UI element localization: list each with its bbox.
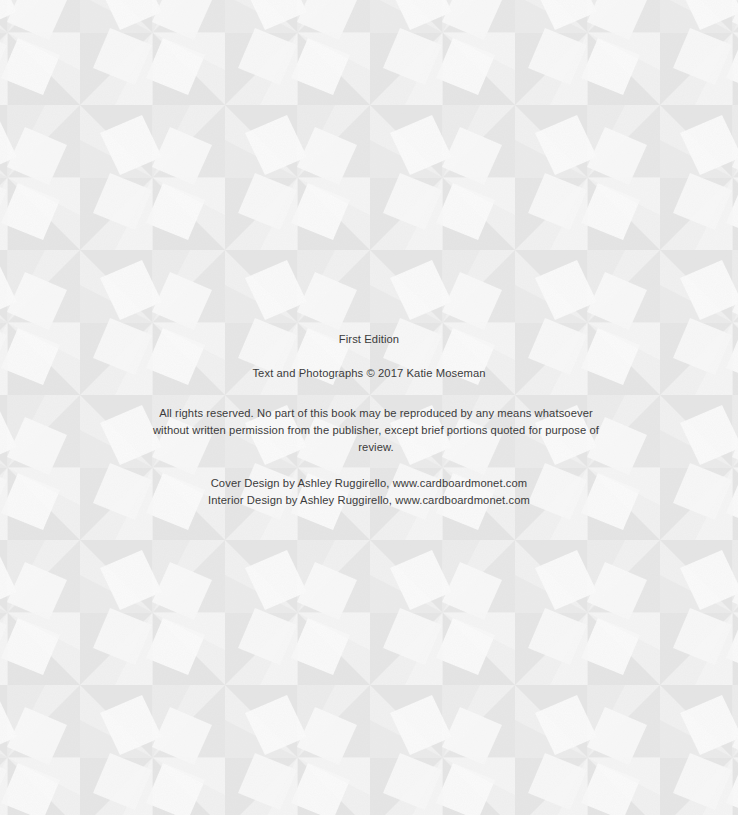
edition-label: First Edition <box>0 333 738 345</box>
interior-design-credit: Interior Design by Ashley Ruggirello, ww… <box>0 494 738 506</box>
cover-design-credit: Cover Design by Ashley Ruggirello, www.c… <box>0 477 738 489</box>
copyright-notice: Text and Photographs © 2017 Katie Mosema… <box>0 367 738 379</box>
rights-reserved-statement: All rights reserved. No part of this boo… <box>140 405 612 456</box>
copyright-text-block: First Edition Text and Photographs © 201… <box>0 0 738 815</box>
copyright-page: First Edition Text and Photographs © 201… <box>0 0 738 815</box>
